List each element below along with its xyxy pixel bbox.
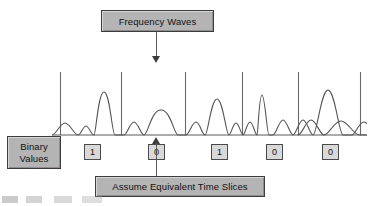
figure-canvas: Frequency Waves Binary Values	[0, 0, 371, 206]
bit-box: 1	[211, 144, 228, 160]
bit-box: 0	[322, 144, 339, 160]
frequency-waves-connector-line	[156, 32, 157, 57]
binary-values-label-line1: Binary	[20, 141, 48, 153]
binary-values-label-line2: Values	[20, 153, 49, 165]
waveform-svg	[52, 70, 367, 140]
scan-artifact	[2, 196, 122, 203]
time-slices-connector-line	[156, 143, 157, 176]
time-slice-ticks	[61, 72, 361, 135]
time-slices-label: Assume Equivalent Time Slices	[112, 181, 247, 192]
down-arrow-icon	[152, 56, 160, 63]
frequency-waves-callout: Frequency Waves	[101, 10, 214, 32]
bit-box: 0	[266, 144, 283, 160]
binary-values-callout: Binary Values	[7, 136, 61, 169]
bit-box: 1	[84, 144, 101, 160]
frequency-waves-label: Frequency Waves	[119, 16, 197, 27]
time-slices-callout: Assume Equivalent Time Slices	[95, 176, 265, 197]
frequency-waveform-line	[52, 90, 367, 135]
waveform-plot	[52, 70, 367, 140]
